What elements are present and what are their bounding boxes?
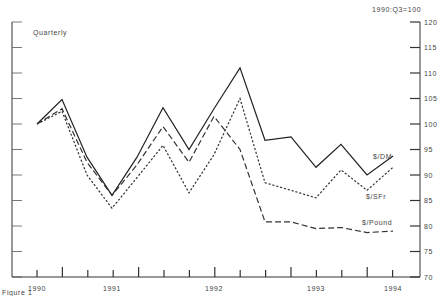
y-tick-label: 110 <box>424 70 437 77</box>
index-note-label: 1990:Q3=100 <box>372 6 421 14</box>
y-tick-label: 115 <box>424 44 437 51</box>
y-tick-label: 105 <box>424 95 437 102</box>
x-tick-label: 1994 <box>384 285 402 292</box>
series-line-sfr <box>37 99 393 209</box>
x-tick-label: 1993 <box>307 285 325 292</box>
y-tick-label: 70 <box>424 274 433 281</box>
y-tick-label: 90 <box>424 172 433 179</box>
y-axis: 707580859095100105110115120 <box>12 19 437 281</box>
legend-label-pound: $/Pound <box>362 219 392 226</box>
y-tick-label: 85 <box>424 197 433 204</box>
series-line-dm <box>37 68 393 195</box>
y-tick-label: 95 <box>424 146 433 153</box>
exchange-rate-chart: 707580859095100105110115120 199019911992… <box>0 0 444 296</box>
legend-label-sfr: $/SFr <box>366 193 386 200</box>
figure-label: Figure 1 <box>2 289 32 296</box>
x-tick-label: 1991 <box>103 285 121 292</box>
series-lines <box>37 68 393 233</box>
subtitle-label: Quarterly <box>33 29 67 37</box>
y-tick-label: 100 <box>424 121 437 128</box>
y-tick-label: 120 <box>424 19 437 26</box>
x-axis: 19901991199219931994 <box>28 267 402 292</box>
y-tick-label: 75 <box>424 248 433 255</box>
legend-label-dm: $/DM <box>373 153 392 160</box>
y-tick-label: 80 <box>424 223 433 230</box>
x-tick-label: 1992 <box>205 285 223 292</box>
